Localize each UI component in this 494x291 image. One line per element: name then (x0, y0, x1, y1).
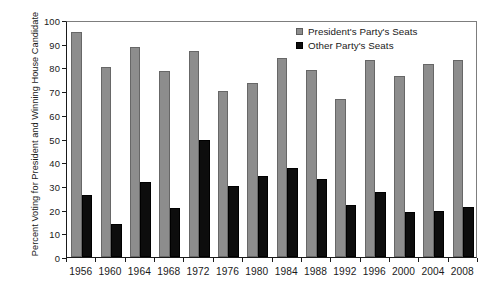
x-tick-mark (448, 258, 449, 262)
x-tick-mark (418, 258, 419, 262)
y-tick-mark (62, 258, 66, 259)
x-tick-mark (272, 258, 273, 262)
chart-legend: President's Party's SeatsOther Party's S… (296, 25, 474, 53)
bar-other-party-1984 (287, 168, 298, 257)
y-tick-mark (62, 211, 66, 212)
bar-presidents-party-1972 (189, 51, 200, 257)
bar-chart-figure: Percent Voting for President and Winning… (0, 0, 494, 291)
legend-item: President's Party's Seats (296, 25, 474, 38)
bar-other-party-1964 (140, 182, 151, 257)
bar-other-party-1956 (82, 195, 93, 257)
y-tick-label: 80 (30, 63, 60, 74)
x-tick-mark (301, 258, 302, 262)
y-tick-mark (62, 140, 66, 141)
bar-presidents-party-2000 (394, 76, 405, 257)
y-tick-mark (62, 21, 66, 22)
y-tick-mark (62, 187, 66, 188)
y-tick-label: 70 (30, 87, 60, 98)
y-tick-mark (62, 68, 66, 69)
bar-other-party-1996 (375, 192, 386, 257)
y-tick-mark (62, 234, 66, 235)
bar-presidents-party-1976 (218, 91, 229, 257)
y-tick-label: 0 (30, 253, 60, 264)
bar-other-party-1988 (317, 179, 328, 257)
x-tick-mark (477, 258, 478, 262)
bar-presidents-party-1964 (130, 47, 141, 257)
y-tick-mark (62, 163, 66, 164)
bar-presidents-party-1984 (277, 58, 288, 257)
legend-swatch-pres-icon (296, 28, 303, 35)
bar-presidents-party-1956 (71, 32, 82, 257)
y-tick-label: 30 (30, 181, 60, 192)
bar-presidents-party-1968 (159, 71, 170, 257)
x-tick-mark (360, 258, 361, 262)
x-tick-mark (213, 258, 214, 262)
bar-other-party-1976 (228, 186, 239, 257)
bar-other-party-1968 (170, 208, 181, 257)
bar-presidents-party-2008 (453, 60, 464, 257)
bar-presidents-party-1992 (335, 99, 346, 257)
x-tick-mark (154, 258, 155, 262)
x-tick-mark (389, 258, 390, 262)
legend-swatch-other-icon (296, 42, 303, 49)
x-tick-mark (242, 258, 243, 262)
y-tick-label: 100 (30, 16, 60, 27)
x-axis: 1956196019641968197219761980198419881992… (66, 258, 477, 291)
y-tick-mark (62, 116, 66, 117)
bar-other-party-1960 (111, 224, 122, 257)
bar-presidents-party-1988 (306, 70, 317, 257)
bar-other-party-2004 (434, 211, 445, 257)
bar-presidents-party-1996 (365, 60, 376, 257)
x-tick-mark (183, 258, 184, 262)
y-tick-label: 20 (30, 205, 60, 216)
x-tick-mark (125, 258, 126, 262)
y-axis-tick-labels: 0102030405060708090100 (30, 0, 60, 291)
x-tick-mark (66, 258, 67, 262)
y-tick-label: 60 (30, 110, 60, 121)
y-tick-mark (62, 92, 66, 93)
plot-area (66, 21, 477, 258)
bars-container (67, 22, 476, 257)
bar-other-party-2000 (405, 212, 416, 257)
y-tick-mark (62, 45, 66, 46)
bar-presidents-party-1980 (247, 83, 258, 257)
x-tick-mark (95, 258, 96, 262)
y-tick-label: 40 (30, 158, 60, 169)
legend-label: Other Party's Seats (308, 40, 394, 51)
y-tick-label: 10 (30, 229, 60, 240)
y-tick-label: 90 (30, 39, 60, 50)
legend-item: Other Party's Seats (296, 39, 474, 52)
y-tick-label: 50 (30, 134, 60, 145)
x-tick-label-2008: 2008 (442, 266, 482, 277)
bar-presidents-party-1960 (101, 67, 112, 257)
bar-other-party-1980 (258, 176, 269, 257)
bar-other-party-2008 (463, 207, 474, 257)
legend-label: President's Party's Seats (308, 26, 418, 37)
x-tick-mark (330, 258, 331, 262)
bar-other-party-1972 (199, 140, 210, 257)
bar-presidents-party-2004 (423, 64, 434, 257)
bar-other-party-1992 (346, 205, 357, 257)
